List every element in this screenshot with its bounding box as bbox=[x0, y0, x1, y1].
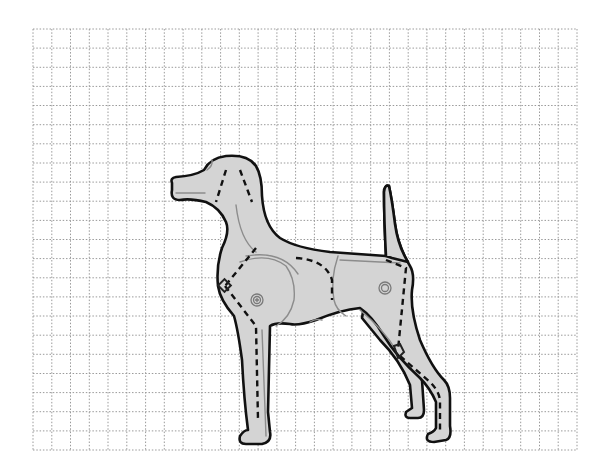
tail bbox=[384, 186, 408, 262]
diagram-canvas bbox=[0, 0, 607, 476]
dog-body-outline bbox=[172, 156, 451, 444]
background-grid bbox=[33, 29, 577, 450]
dog-rig-diagram bbox=[0, 0, 607, 476]
